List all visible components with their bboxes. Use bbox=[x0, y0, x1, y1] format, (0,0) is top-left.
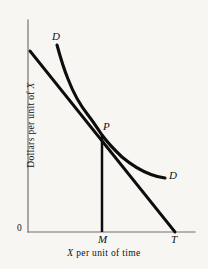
x-axis-title-text: per unit of time bbox=[73, 248, 140, 258]
tangency-point-label: P bbox=[103, 121, 110, 132]
demand-curve-path bbox=[57, 45, 165, 178]
quantity-point-label: M bbox=[98, 234, 107, 245]
y-axis-title-text: Dollars per unit of bbox=[26, 88, 36, 167]
y-axis-title-wrapper: Dollars per unit of X bbox=[20, 45, 34, 205]
origin-label: 0 bbox=[17, 224, 22, 234]
demand-upper-label: D bbox=[52, 31, 60, 42]
intercept-point-label: T bbox=[171, 234, 177, 245]
demand-lower-label: D bbox=[169, 170, 177, 181]
y-axis-title-symbol: X bbox=[26, 82, 36, 88]
x-axis-title: X per unit of time bbox=[0, 248, 208, 258]
y-axis-title: Dollars per unit of X bbox=[26, 82, 36, 167]
demand-curve-figure: 0 D D P M T X per unit of time Dollars p… bbox=[0, 0, 208, 269]
